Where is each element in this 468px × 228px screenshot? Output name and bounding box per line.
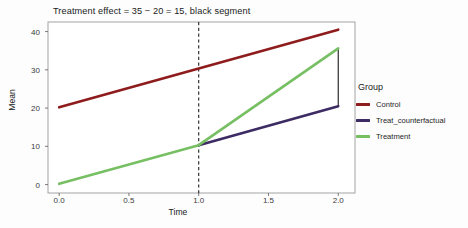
legend-items: ControlTreat_counterfactualTreatment <box>356 98 466 143</box>
legend-item-treat-counterfactual[interactable]: Treat_counterfactual <box>356 114 466 127</box>
plot-panel-background <box>48 22 355 193</box>
y-tick-label: 30 <box>16 65 40 74</box>
legend-item-label: Treat_counterfactual <box>376 116 445 125</box>
x-tick-label: 0.5 <box>123 196 134 205</box>
legend-item-label: Treatment <box>376 132 410 141</box>
x-axis-title: Time <box>0 207 356 217</box>
legend-item-control[interactable]: Control <box>356 98 466 111</box>
x-tick-label: 0.0 <box>54 196 65 205</box>
legend-item-label: Control <box>376 100 400 109</box>
y-tick-label: 40 <box>16 27 40 36</box>
legend: Group ControlTreat_counterfactualTreatme… <box>356 82 466 146</box>
legend-key-swatch <box>356 119 370 122</box>
x-tick-label: 2.0 <box>333 196 344 205</box>
x-tick-label: 1.5 <box>263 196 274 205</box>
legend-item-treatment[interactable]: Treatment <box>356 130 466 143</box>
y-tick-label: 10 <box>16 142 40 151</box>
x-tick-label: 1.0 <box>193 196 204 205</box>
y-axis-title: Mean <box>7 75 17 125</box>
y-tick-label: 20 <box>16 104 40 113</box>
chart-title: Treatment effect = 35 − 20 = 15, black s… <box>53 6 250 16</box>
legend-key-swatch <box>356 135 370 138</box>
legend-title: Group <box>358 82 466 92</box>
legend-key-swatch <box>356 103 370 106</box>
y-tick-label: 0 <box>16 180 40 189</box>
chart-figure: Treatment effect = 35 − 20 = 15, black s… <box>0 0 468 228</box>
